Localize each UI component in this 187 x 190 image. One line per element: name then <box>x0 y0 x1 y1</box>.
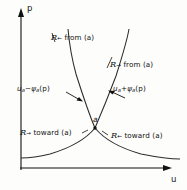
right-branch-annotation: ua+ψa(p) <box>113 85 146 93</box>
curve-r-forward-from-a <box>95 29 129 128</box>
diagram-canvas <box>0 0 187 190</box>
y-axis-label: p <box>27 4 32 13</box>
curve-label-text: toward (a) <box>33 128 71 137</box>
curve-label-text: from (a) <box>64 33 94 42</box>
wave-curve-diagram: p u a R← from (a) R→ from (a) R→ toward … <box>0 0 187 190</box>
curve-r-back-from-a <box>68 29 95 128</box>
direction-arrow-icon: → <box>26 130 31 136</box>
lower-right-label-leader <box>102 131 108 135</box>
point-a-label: a <box>93 116 98 124</box>
x-axis-label: u <box>171 175 176 184</box>
left-branch-annotation: ua−ψa(p) <box>17 85 50 93</box>
curve-label-lower-left: R→ toward (a) <box>20 128 72 136</box>
function-argument: (p) <box>135 84 145 93</box>
function-argument: (p) <box>39 84 49 93</box>
curve-label-lower-right: R← toward (a) <box>111 131 163 139</box>
lower-left-label-leader <box>82 130 88 133</box>
point-a-marker <box>93 126 96 129</box>
curve-label-text: from (a) <box>123 60 153 69</box>
x-axis <box>20 165 172 171</box>
left-annotation-arrow <box>66 92 83 102</box>
curve-label-upper-right: R→ from (a) <box>110 60 153 68</box>
y-axis-arrowhead <box>18 8 24 17</box>
direction-arrow-icon: ← <box>117 133 122 139</box>
x-axis-arrowhead <box>163 165 172 171</box>
direction-arrow-icon: → <box>116 62 121 68</box>
curve-label-text: toward (a) <box>124 131 162 140</box>
direction-arrow-icon: ← <box>57 35 62 41</box>
curve-label-upper-left: R← from (a) <box>51 33 94 41</box>
